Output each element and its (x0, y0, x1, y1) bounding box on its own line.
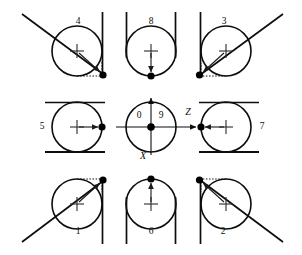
cell-7-group: 7 (197, 102, 264, 152)
cell-3-label: 3 (222, 16, 227, 26)
cell-8-contact-point (147, 72, 154, 79)
cell-8-group: 8 (126, 12, 176, 80)
cell-center-group: 0 9 Z X (116, 98, 196, 161)
cell-2-label: 2 (221, 226, 226, 236)
cell-4-contact-point (99, 71, 106, 78)
cell-8-label: 8 (149, 16, 154, 26)
cell-1-group: 1 (22, 176, 107, 244)
cell-6-group: 6 (126, 175, 176, 244)
cell-1-contact-point (99, 176, 106, 183)
cell-4-group: 4 (22, 12, 107, 79)
cell-2-group: 2 (196, 176, 283, 244)
cell-2-diagonal-tangent (200, 180, 283, 242)
x-axis-label: X (139, 150, 147, 161)
cell-1-label: 1 (76, 226, 81, 236)
cell-3-contact-arrow (204, 53, 225, 72)
cell-5-label: 5 (40, 121, 45, 131)
cell-4-diagonal-tangent (22, 14, 103, 74)
cell-2-contact-arrow (204, 184, 225, 203)
tangent-contact-diagram: 4 8 3 (0, 0, 302, 255)
cell-7-label: 7 (260, 121, 265, 131)
cell-5-contact-point (98, 123, 105, 130)
cell-1-diagonal-tangent (22, 181, 103, 242)
origin-point (147, 123, 155, 131)
cell-2-contact-point (196, 176, 203, 183)
cell-3-group: 3 (196, 12, 283, 79)
cell-3-diagonal-tangent (200, 14, 283, 75)
cell-7-contact-point (197, 123, 204, 130)
z-axis-label: Z (185, 106, 191, 117)
quadrant-right-label: 9 (159, 110, 164, 120)
cell-4-label: 4 (76, 16, 81, 26)
cell-5-group: 5 (40, 102, 106, 152)
quadrant-left-label: 0 (137, 110, 142, 120)
cell-6-contact-point (147, 175, 154, 182)
diagram-canvas: 4 8 3 (0, 0, 302, 255)
cell-6-label: 6 (149, 226, 154, 236)
cell-1-contact-arrow (79, 184, 100, 203)
cell-4-contact-arrow (79, 53, 100, 72)
cell-3-contact-point (196, 71, 203, 78)
